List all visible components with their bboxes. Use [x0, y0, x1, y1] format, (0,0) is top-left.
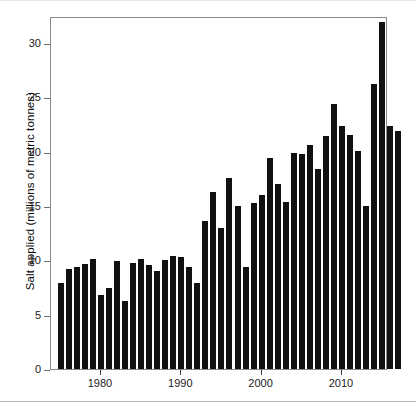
bar — [355, 151, 361, 369]
bar — [379, 22, 385, 369]
bar — [90, 259, 96, 369]
y-tick-label: 15 — [19, 201, 41, 212]
bar — [347, 135, 353, 369]
bar — [114, 261, 120, 369]
bar-series — [51, 18, 386, 369]
bar — [66, 269, 72, 369]
y-tick-label: 25 — [19, 92, 41, 103]
x-tick-mark — [341, 370, 342, 375]
bar — [283, 202, 289, 369]
figure-bottom-rule — [0, 401, 416, 402]
bar — [323, 136, 329, 369]
bar — [82, 264, 88, 369]
bar — [178, 257, 184, 369]
bar — [267, 158, 273, 369]
bar — [395, 131, 401, 369]
bar — [122, 301, 128, 369]
bar — [74, 267, 80, 369]
bar — [243, 267, 249, 369]
x-tick-mark — [100, 370, 101, 375]
bar — [194, 283, 200, 369]
x-tick-label: 1990 — [160, 378, 200, 389]
salt-applied-bar-chart: Salt applied (millions of metric tonnes)… — [0, 0, 416, 410]
bar — [299, 154, 305, 369]
bar — [275, 184, 281, 369]
bar — [154, 271, 160, 369]
y-tick-label: 20 — [19, 147, 41, 158]
bar — [170, 256, 176, 369]
bar — [339, 126, 345, 369]
bar — [186, 267, 192, 369]
x-tick-label: 2010 — [321, 378, 361, 389]
bar — [210, 192, 216, 369]
bar — [146, 265, 152, 369]
bar — [235, 206, 241, 369]
bar — [218, 228, 224, 369]
bar — [371, 84, 377, 369]
bar — [226, 178, 232, 369]
x-tick-label: 2000 — [241, 378, 281, 389]
bar — [106, 288, 112, 370]
bar — [307, 145, 313, 369]
bar — [162, 260, 168, 369]
y-tick-mark — [44, 370, 50, 371]
bar — [138, 259, 144, 369]
x-tick-mark — [180, 370, 181, 375]
bar — [251, 203, 257, 369]
bar — [98, 295, 104, 369]
x-tick-label: 1980 — [80, 378, 120, 389]
bar — [315, 169, 321, 369]
bar — [291, 153, 297, 369]
y-tick-label: 10 — [19, 255, 41, 266]
y-tick-label: 30 — [19, 38, 41, 49]
bar — [130, 263, 136, 369]
bar — [387, 126, 393, 369]
figure-top-edge — [0, 0, 416, 1]
x-tick-mark — [261, 370, 262, 375]
bar — [202, 221, 208, 369]
y-tick-label: 0 — [19, 364, 41, 375]
bar — [259, 195, 265, 369]
bar — [331, 104, 337, 369]
y-tick-label: 5 — [19, 310, 41, 321]
bar — [363, 206, 369, 369]
plot-area — [50, 17, 387, 370]
bar — [58, 283, 64, 369]
